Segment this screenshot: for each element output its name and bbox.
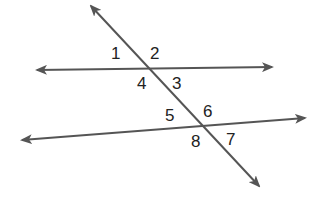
angle-label-5: 5 [165, 106, 174, 125]
top-line [37, 67, 272, 70]
angle-label-6: 6 [203, 102, 212, 121]
bottom-line [22, 118, 305, 140]
angle-label-3: 3 [172, 74, 181, 93]
parallel-lines-transversal-diagram: 1 2 3 4 5 6 7 8 [0, 0, 328, 199]
angle-label-4: 4 [137, 74, 146, 93]
angle-label-7: 7 [226, 130, 235, 149]
angle-label-8: 8 [191, 132, 200, 151]
transversal-line [91, 6, 259, 186]
angle-label-1: 1 [111, 44, 120, 63]
angle-label-2: 2 [150, 44, 159, 63]
